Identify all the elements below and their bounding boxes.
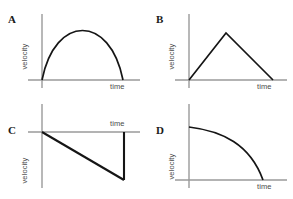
four-panel-velocity-time-figure: A velocity time B velocity time C veloci… [0, 0, 293, 199]
panel-d-plot [147, 100, 293, 199]
panel-c: C velocity time [0, 100, 146, 199]
panel-d: D velocity time [147, 100, 293, 199]
panel-b-plot [147, 0, 293, 99]
panel-c-ramp-line [42, 132, 124, 180]
panel-a: A velocity time [0, 0, 146, 99]
panel-a-curve [42, 31, 123, 81]
panel-c-plot [0, 100, 146, 199]
panel-d-curve [189, 127, 263, 180]
panel-b-curve [189, 33, 273, 80]
panel-b: B velocity time [147, 0, 293, 99]
panel-a-plot [0, 0, 146, 99]
